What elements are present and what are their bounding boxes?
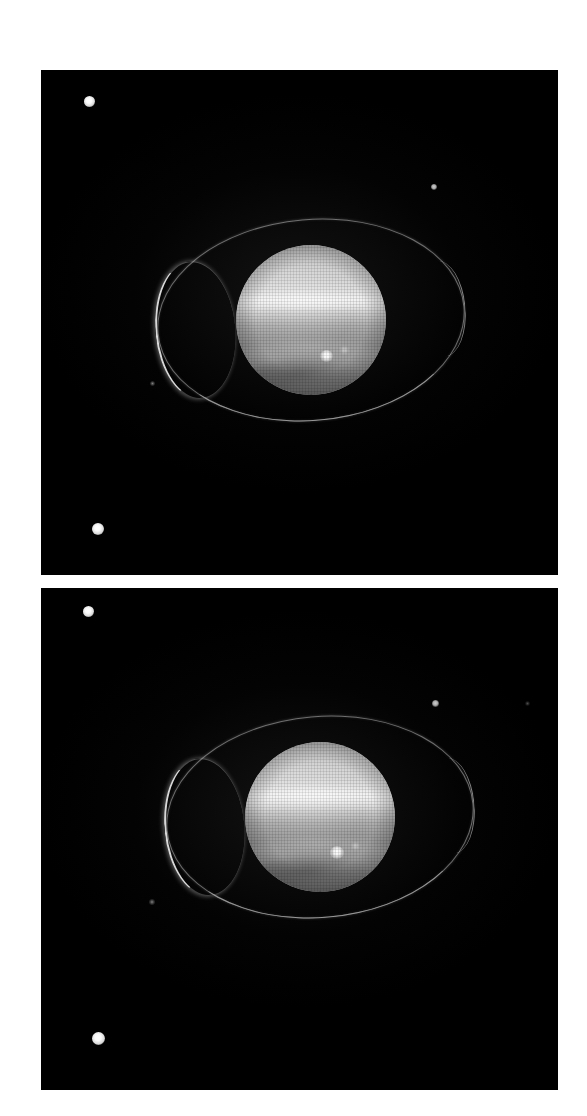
moon-mid-left[interactable] — [149, 899, 155, 905]
planet-limb-shading — [245, 742, 395, 892]
planet-limb-shading — [236, 245, 386, 395]
moon-upper-left[interactable] — [84, 96, 95, 107]
image-panel-bottom[interactable] — [41, 588, 558, 1090]
moon-upper-left[interactable] — [83, 606, 94, 617]
moon-far-right[interactable] — [525, 701, 530, 706]
moon-lower-left[interactable] — [92, 1032, 105, 1045]
planet-disk[interactable] — [236, 245, 386, 395]
figure-canvas — [0, 0, 587, 1116]
moon-right[interactable] — [432, 700, 439, 707]
panel-top-content — [41, 70, 558, 575]
image-panel-top[interactable] — [41, 70, 558, 575]
moon-mid-left[interactable] — [150, 381, 155, 386]
moon-lower-left[interactable] — [92, 523, 104, 535]
planet-disk[interactable] — [245, 742, 395, 892]
panel-bottom-content — [41, 588, 558, 1090]
moon-right[interactable] — [431, 184, 437, 190]
